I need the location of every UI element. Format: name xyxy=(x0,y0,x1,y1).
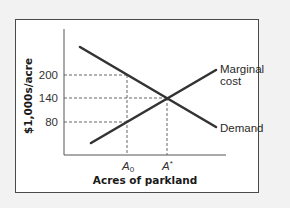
chart-svg: 200 140 80 A0 A* Marginal cost Demand Ac… xyxy=(0,0,290,208)
y-tick-200: 200 xyxy=(39,69,58,81)
demand-label: Demand xyxy=(220,122,263,134)
marginal-cost-label-line1: Marginal xyxy=(220,63,264,75)
demand-curve xyxy=(80,47,216,127)
x-tick-astar-base: A xyxy=(161,160,170,172)
x-tick-a0-base: A xyxy=(121,160,130,172)
y-tick-80: 80 xyxy=(45,116,58,128)
y-tick-140: 140 xyxy=(39,92,58,104)
x-tick-astar-sup: * xyxy=(170,159,173,168)
x-tick-a0-sub: 0 xyxy=(130,165,135,174)
x-axis-title: Acres of parkland xyxy=(93,174,197,186)
marginal-cost-label-line2: cost xyxy=(220,75,242,87)
marginal-cost-curve xyxy=(91,70,216,143)
y-axis-title: $1,000s/acre xyxy=(22,58,34,134)
x-tick-astar: A* xyxy=(161,159,173,172)
x-tick-a0: A0 xyxy=(121,160,135,174)
